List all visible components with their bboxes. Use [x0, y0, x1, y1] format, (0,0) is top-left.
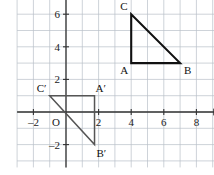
x-axis-arrowhead [213, 108, 214, 115]
x-axis-tick-label: 6 [161, 116, 167, 128]
vertex-label-a: A [120, 64, 128, 76]
y-axis-tick-label: 4 [55, 41, 61, 53]
x-axis-tick-label: 8 [194, 116, 200, 128]
vertex-label-a-prime: A′ [96, 82, 106, 94]
axes-layer [17, 0, 214, 167]
coordinate-plane-figure: –22468246–2OxyCABC′A′B′ [0, 0, 214, 175]
vertex-label-c-prime: C′ [37, 82, 47, 94]
y-axis-tick-label: –2 [48, 139, 60, 151]
x-axis-tick-label: 4 [128, 116, 134, 128]
triangle-abc [131, 14, 180, 63]
origin-label: O [52, 116, 60, 128]
vertex-label-b: B [184, 64, 191, 76]
figure-svg: –22468246–2OxyCABC′A′B′ [0, 0, 214, 175]
grid-layer [17, 0, 214, 167]
x-axis-tick-label: –2 [27, 116, 39, 128]
y-axis-tick-label: 2 [55, 73, 61, 85]
vertex-label-b-prime: B′ [97, 147, 107, 159]
vertex-label-c: C [120, 0, 127, 12]
y-axis-tick-label: 6 [55, 8, 61, 20]
x-axis-tick-label: 2 [96, 116, 102, 128]
